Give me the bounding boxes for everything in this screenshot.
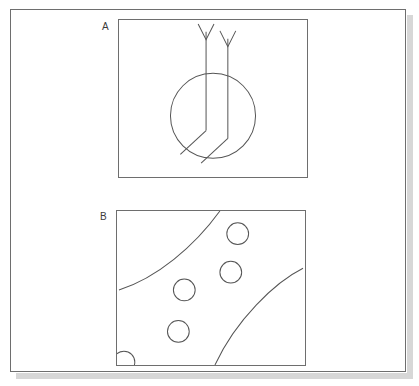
panel-b-circle-group bbox=[117, 223, 249, 365]
panel-a-drawing bbox=[119, 20, 307, 177]
panel-a-label: A bbox=[102, 22, 109, 32]
panel-b-circle bbox=[167, 321, 189, 343]
panel-b-circle bbox=[227, 223, 249, 245]
panel-b-drawing bbox=[117, 211, 305, 365]
panel-b-circle bbox=[220, 261, 242, 283]
panel-b-circle bbox=[117, 351, 135, 365]
frame-shadow-right bbox=[407, 15, 413, 378]
panel-a bbox=[118, 19, 308, 178]
panel-b-label: B bbox=[100, 212, 107, 222]
panel-b bbox=[116, 210, 306, 366]
panel-a-circle bbox=[170, 73, 255, 158]
frame-shadow-bottom bbox=[16, 373, 413, 379]
figure-root: A B bbox=[0, 0, 419, 386]
panel-a-right-bend-line bbox=[201, 138, 228, 163]
panel-b-circle bbox=[173, 279, 195, 301]
panel-b-upper-curve bbox=[119, 211, 220, 290]
panel-a-left-bend-line bbox=[180, 131, 206, 155]
